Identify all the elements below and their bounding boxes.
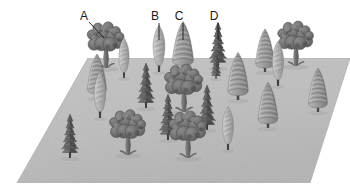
forest-plot-figure: ABCD: [0, 0, 350, 195]
forest-plot-svg: ABCD: [0, 0, 350, 195]
callout-label-b[interactable]: B: [151, 9, 159, 23]
callout-label-d[interactable]: D: [210, 9, 219, 23]
callout-label-a[interactable]: A: [80, 9, 88, 23]
callout-label-c[interactable]: C: [175, 9, 184, 23]
